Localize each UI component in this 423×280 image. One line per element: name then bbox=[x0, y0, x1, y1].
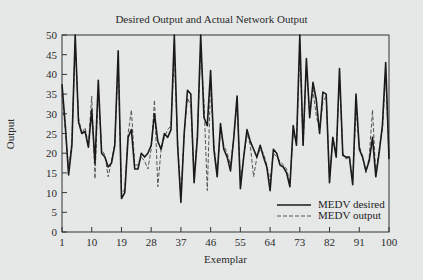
x-tick-label: 64 bbox=[265, 236, 277, 248]
legend-label-output: MEDV output bbox=[318, 209, 381, 221]
y-tick-label: 35 bbox=[46, 88, 58, 100]
x-tick-label: 46 bbox=[205, 236, 217, 248]
x-tick-label: 100 bbox=[381, 236, 398, 248]
y-tick-label: 0 bbox=[52, 226, 58, 238]
x-tick-label: 10 bbox=[86, 236, 98, 248]
y-tick-label: 25 bbox=[46, 128, 58, 140]
series-lines bbox=[62, 35, 389, 202]
x-tick-label: 1 bbox=[59, 236, 65, 248]
y-tick-label: 40 bbox=[46, 68, 58, 80]
series-desired-line bbox=[62, 35, 389, 202]
y-tick-label: 50 bbox=[46, 29, 58, 41]
y-tick-label: 10 bbox=[46, 187, 58, 199]
y-tick-label: 15 bbox=[46, 167, 58, 179]
series-output-line bbox=[62, 43, 389, 197]
y-tick-label: 30 bbox=[46, 108, 58, 120]
x-tick-label: 37 bbox=[175, 236, 187, 248]
y-tick-label: 45 bbox=[46, 49, 58, 61]
legend bbox=[277, 205, 311, 216]
x-tick-label: 91 bbox=[354, 236, 365, 248]
y-tick-label: 20 bbox=[46, 147, 58, 159]
x-tick-label: 55 bbox=[235, 236, 247, 248]
x-tick-label: 19 bbox=[116, 236, 128, 248]
x-tick-label: 73 bbox=[294, 236, 306, 248]
x-tick-label: 82 bbox=[324, 236, 335, 248]
x-tick-label: 28 bbox=[146, 236, 158, 248]
line-chart: 0510152025303540455011019283746556473829… bbox=[0, 0, 423, 280]
y-tick-label: 5 bbox=[52, 206, 58, 218]
